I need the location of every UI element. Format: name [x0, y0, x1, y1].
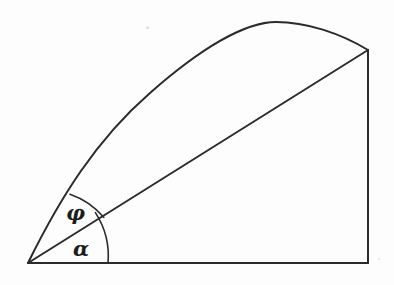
angle-label-phi: φ: [66, 202, 85, 223]
scan-speck: [146, 26, 149, 29]
trajectory-curve: [28, 22, 368, 263]
scan-speck: [378, 258, 380, 260]
diagram-svg: [0, 0, 394, 285]
angle-label-alpha: α: [73, 238, 89, 259]
diagram-canvas: φ α: [0, 0, 394, 285]
chord-line: [28, 50, 368, 263]
